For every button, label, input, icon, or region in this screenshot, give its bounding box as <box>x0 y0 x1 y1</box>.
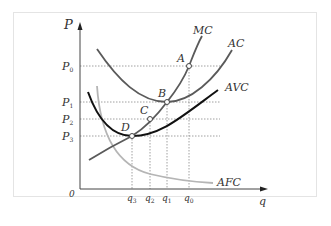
y-axis-label: P <box>63 17 73 32</box>
cost-curves-chart: P q 0 P0 P1 P2 P3 q3 q2 q1 q0 MC AC AVC … <box>0 0 331 226</box>
point-c <box>148 117 153 122</box>
q1-label: q1 <box>162 193 172 204</box>
point-a-label: A <box>176 52 185 65</box>
q0-label: q0 <box>184 193 194 204</box>
origin-label: 0 <box>69 189 75 199</box>
point-d-label: D <box>120 121 130 134</box>
mc-label: MC <box>192 24 213 37</box>
p2-label: P2 <box>61 113 73 126</box>
point-d <box>130 134 135 139</box>
point-b-label: B <box>157 87 166 100</box>
avc-curve <box>88 90 218 136</box>
y-axis-arrow-icon <box>78 22 83 30</box>
afc-label: AFC <box>216 176 242 189</box>
ac-label: AC <box>227 37 245 50</box>
p0-label: P0 <box>61 60 73 73</box>
p1-label: P1 <box>61 96 73 109</box>
x-axis-label: q <box>259 195 266 208</box>
q2-label: q2 <box>145 193 155 204</box>
point-b <box>165 100 170 105</box>
p3-label: P3 <box>61 130 73 143</box>
point-a <box>187 64 192 69</box>
reference-lines <box>80 66 220 189</box>
q3-label: q3 <box>127 193 137 204</box>
avc-label: AVC <box>224 81 249 94</box>
x-axis-arrow-icon <box>260 187 268 192</box>
point-c-label: C <box>140 104 149 117</box>
